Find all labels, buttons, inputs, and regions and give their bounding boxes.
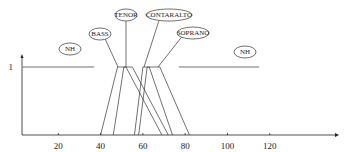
x-tick-label: 20 — [54, 141, 64, 151]
annotation-label: NH — [65, 45, 75, 53]
annotation-label: NH — [240, 48, 250, 56]
label-leader-line — [105, 39, 118, 67]
series-soprano — [139, 67, 190, 135]
annotation-label: TENOR — [114, 11, 138, 19]
annotation-label: BASS — [91, 30, 109, 38]
annotation-label: CONTARALTO — [146, 11, 192, 19]
series-tenor — [113, 67, 168, 135]
label-leader-line — [144, 20, 159, 67]
x-tick-label: 80 — [181, 141, 191, 151]
x-axis-arrow — [335, 133, 339, 137]
x-tick-label: 120 — [263, 141, 277, 151]
y-axis-arrow — [21, 54, 24, 58]
membership-chart: 204060801001201 NHBASSTENORCONTARALTOSOP… — [0, 0, 351, 152]
x-tick-label: 60 — [138, 141, 148, 151]
annotation-label: SOPRANO — [177, 29, 210, 37]
x-tick-label: 40 — [96, 141, 106, 151]
x-tick-label: 100 — [221, 141, 235, 151]
label-leader-line — [158, 37, 182, 67]
y-tick-label: 1 — [9, 62, 14, 72]
